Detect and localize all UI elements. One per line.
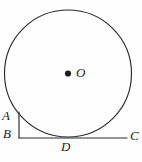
figure-canvas: [0, 0, 142, 162]
point-label-a: A: [2, 109, 10, 122]
point-label-c: C: [130, 129, 139, 142]
point-label-d: D: [61, 140, 70, 153]
geometry-figure: A B C D O: [0, 0, 142, 162]
center-label-o: O: [76, 66, 85, 79]
center-point-dot: [65, 70, 71, 76]
point-label-b: B: [3, 127, 11, 140]
